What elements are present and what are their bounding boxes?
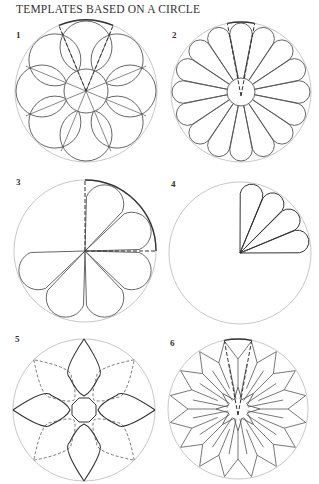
kite-edge — [219, 429, 230, 455]
kite-edge — [284, 371, 295, 390]
kite-edge — [288, 396, 306, 409]
kite-edge — [273, 444, 276, 466]
kite-edge — [200, 444, 203, 466]
kite-edge — [288, 409, 306, 422]
scallop-outline — [85, 212, 151, 251]
kite-edge — [170, 390, 191, 396]
petal-outline — [240, 184, 263, 253]
kite-edge — [225, 459, 238, 477]
template-arc — [224, 339, 251, 340]
kite-edge — [200, 352, 203, 374]
kite-edge — [238, 459, 251, 477]
kite-edge — [203, 374, 223, 394]
kite-edge — [219, 363, 230, 389]
kite-edge — [244, 417, 264, 447]
kite-edge — [181, 428, 192, 447]
kite-edge — [284, 428, 295, 447]
solid-lobe — [98, 394, 155, 427]
solid-lobe — [13, 394, 70, 427]
kite-edge — [284, 422, 305, 428]
center-octagon — [72, 398, 96, 422]
kite-edge — [246, 415, 276, 435]
kite-edge — [258, 390, 284, 401]
kite-edge — [219, 341, 225, 362]
kite-edge — [181, 444, 203, 447]
kite-edge — [246, 363, 257, 389]
kite-edge — [170, 396, 188, 409]
kite-edge — [248, 400, 283, 407]
circle-templates-diagram — [0, 0, 319, 484]
kite-edge — [203, 425, 223, 445]
scallop-outline — [85, 185, 124, 251]
kite-edge — [254, 425, 274, 445]
kite-edge — [248, 411, 283, 418]
kite-edge — [200, 455, 219, 466]
kite-edge — [181, 371, 192, 390]
kite-edge — [251, 341, 257, 362]
kite-edge — [200, 383, 230, 403]
petal-outline — [230, 106, 253, 161]
center-star — [216, 387, 260, 431]
kite-edge — [192, 417, 218, 428]
kite-edge — [170, 422, 191, 428]
kite-edge — [246, 429, 257, 455]
kite-edge — [257, 455, 276, 466]
kite-edge — [229, 364, 236, 399]
petal-outline — [172, 81, 227, 104]
kite-edge — [192, 390, 218, 401]
kite-edge — [273, 371, 295, 374]
scallop-outline — [46, 251, 85, 317]
kite-edge — [212, 371, 232, 401]
kite-edge — [284, 390, 305, 396]
petal-outline — [240, 230, 309, 253]
scallop-outline — [85, 251, 124, 317]
kite-edge — [240, 364, 247, 399]
kite-edge — [240, 419, 247, 454]
kite-edge — [181, 371, 203, 374]
dashed-template-edge — [224, 340, 238, 415]
dashed-template-edge — [238, 340, 252, 415]
kite-edge — [246, 383, 276, 403]
kite-edge — [258, 417, 284, 428]
kite-edge — [257, 352, 276, 363]
petal-outline — [255, 81, 310, 104]
kite-edge — [238, 341, 251, 359]
kite-edge — [219, 455, 225, 476]
kite-edge — [193, 411, 228, 418]
kite-edge — [244, 371, 264, 401]
petal-outline — [230, 23, 253, 78]
center-circle — [227, 78, 255, 106]
kite-edge — [212, 417, 232, 447]
kite-edge — [254, 374, 274, 394]
solid-lobe — [68, 424, 101, 481]
kite-edge — [200, 415, 230, 435]
kite-edge — [251, 455, 257, 476]
kite-edge — [229, 419, 236, 454]
scallop-outline — [85, 251, 151, 290]
kite-edge — [200, 352, 219, 363]
kite-edge — [273, 352, 276, 374]
scallop-outline — [19, 251, 85, 290]
kite-edge — [225, 341, 238, 359]
solid-lobe — [68, 339, 101, 396]
kite-edge — [193, 400, 228, 407]
kite-edge — [170, 409, 188, 422]
kite-edge — [273, 444, 295, 447]
